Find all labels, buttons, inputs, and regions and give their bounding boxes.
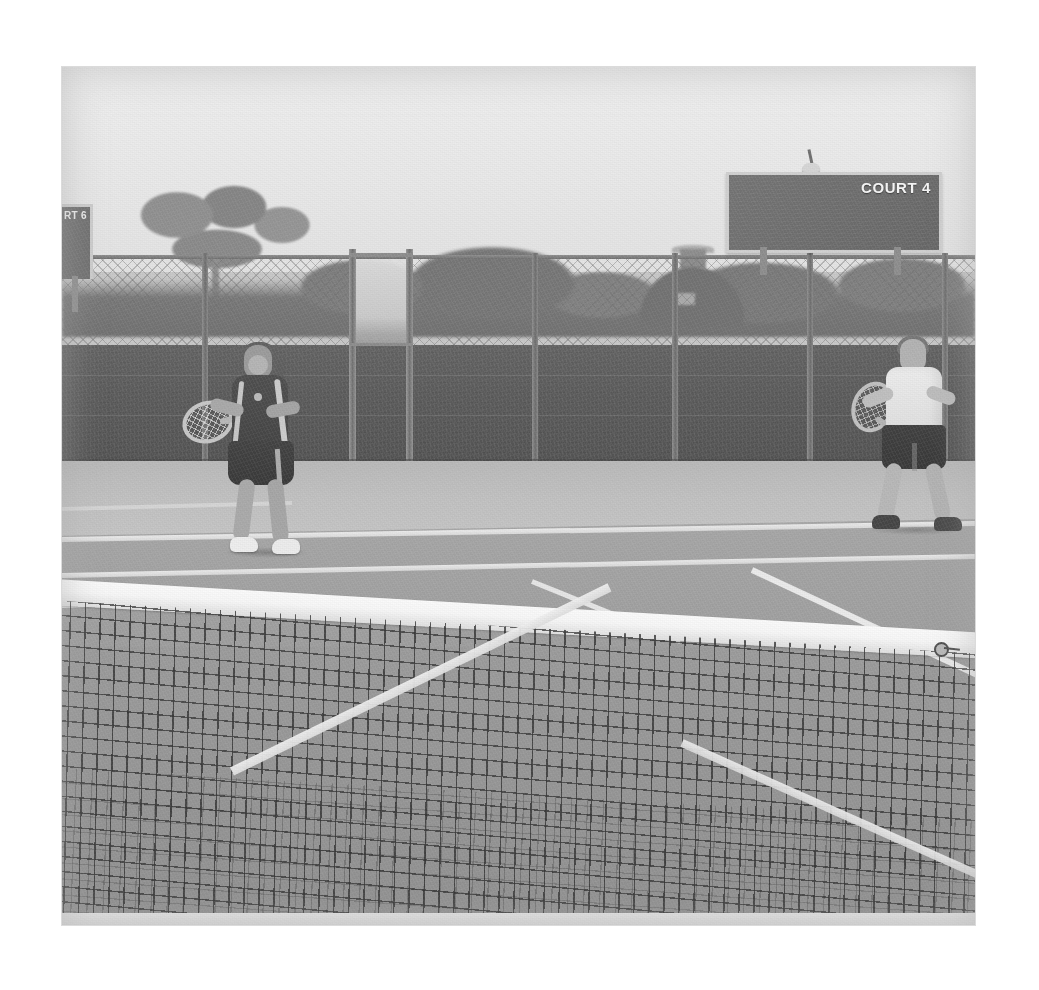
- left-player-face: [248, 355, 268, 375]
- left-player-skirt: [228, 441, 294, 485]
- scoreboard-leg: [894, 247, 901, 275]
- right-player: [842, 339, 975, 554]
- fence-post: [532, 253, 538, 465]
- court-apron-foreground: [62, 913, 975, 925]
- left-player-leg-left: [232, 478, 255, 541]
- right-player-leg-right: [924, 462, 952, 522]
- fence-gate-opening: [356, 259, 406, 343]
- page-canvas: RT 6 COURT 4: [0, 0, 1039, 990]
- net-tension-fitting-icon: [934, 642, 949, 657]
- gate-post-right: [406, 249, 413, 467]
- scoreboard-lamp-icon: [802, 163, 820, 172]
- scoreboard-leg: [760, 247, 767, 275]
- right-player-shoe-right: [934, 517, 962, 531]
- scoreboard: COURT 4: [726, 172, 942, 253]
- fence-post: [807, 253, 813, 465]
- fence-post: [672, 253, 678, 465]
- left-player-leg-right: [267, 478, 290, 543]
- scoreboard-court-label: COURT 4: [861, 179, 931, 196]
- court-sign-post: [72, 276, 78, 312]
- left-player-shoe-left: [230, 537, 258, 552]
- scoreboard-supports: [726, 247, 936, 275]
- left-player-shirt-logo: [254, 393, 262, 401]
- court-sign-left: RT 6: [62, 204, 93, 279]
- tennis-court-photograph: RT 6 COURT 4: [62, 67, 975, 925]
- left-player-shoe-right: [272, 539, 300, 554]
- right-player-leg-left: [877, 462, 904, 522]
- right-player-shoe-left: [872, 515, 900, 529]
- left-player: [180, 345, 370, 570]
- right-player-shorts-split: [912, 443, 917, 471]
- court-sign-left-label: RT 6: [64, 210, 87, 221]
- gate-rail-top: [349, 253, 413, 257]
